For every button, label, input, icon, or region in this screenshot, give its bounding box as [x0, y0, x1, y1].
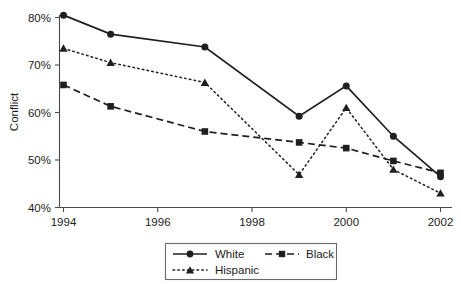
data-point-black-1997 [202, 128, 209, 135]
legend-label-white: White [215, 248, 244, 260]
data-point-hispanic-1994 [59, 44, 67, 51]
series-white [60, 12, 444, 181]
data-point-black-1994 [60, 82, 67, 89]
series-line-white [64, 15, 441, 177]
x-tick-label-1994: 1994 [51, 216, 77, 228]
data-point-black-2000 [343, 145, 350, 152]
y-tick-label-70: 70% [28, 59, 51, 71]
data-point-white-2001 [390, 133, 397, 140]
series-hispanic [59, 44, 444, 196]
series-line-hispanic [64, 48, 441, 193]
y-tick-label-80: 80% [28, 12, 51, 24]
data-point-hispanic-2002 [436, 189, 444, 196]
data-point-hispanic-1997 [201, 78, 209, 85]
y-axis-title: Conflict [8, 92, 20, 131]
chart-legend: White Black Hispanic [166, 244, 337, 280]
data-point-white-2000 [343, 82, 350, 89]
data-point-black-1995 [107, 103, 114, 110]
legend-marker-circle-icon [187, 251, 194, 258]
chart-container: Conflict 80% 70% 60% 50% 40% 1994 1996 1… [0, 0, 461, 284]
data-point-black-1999 [296, 139, 303, 146]
data-point-hispanic-1995 [106, 59, 114, 66]
data-point-white-1999 [296, 113, 303, 120]
y-axis-ticks: 80% 70% 60% 50% 40% [28, 12, 60, 214]
y-tick-label-50: 50% [28, 154, 51, 166]
y-tick-label-60: 60% [28, 107, 51, 119]
data-point-black-2001 [390, 158, 397, 165]
data-point-black-2002 [437, 170, 444, 177]
legend-marker-square-icon [279, 251, 285, 257]
legend-label-hispanic: Hispanic [215, 264, 259, 276]
x-axis-ticks: 1994 1996 1998 2000 2002 [51, 208, 454, 229]
data-series-layer [59, 12, 444, 197]
x-tick-label-2000: 2000 [333, 216, 359, 228]
line-chart: Conflict 80% 70% 60% 50% 40% 1994 1996 1… [0, 0, 461, 284]
y-tick-label-40: 40% [28, 202, 51, 214]
x-tick-label-1998: 1998 [239, 216, 265, 228]
data-point-white-1994 [60, 12, 67, 19]
data-point-white-1997 [201, 43, 208, 50]
data-point-white-1995 [107, 31, 114, 38]
data-point-hispanic-2000 [342, 104, 350, 111]
x-tick-label-1996: 1996 [145, 216, 171, 228]
legend-label-black: Black [306, 248, 334, 260]
x-tick-label-2002: 2002 [428, 216, 454, 228]
